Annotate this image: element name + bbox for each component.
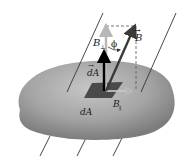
- da-vector-overarrow: →: [88, 62, 94, 70]
- field-line: [40, 136, 50, 156]
- b-vector-overarrow: →: [134, 26, 141, 35]
- flux-diagram: B → B ⊥ ϕ dA → B ∥ dA: [0, 0, 191, 166]
- da-scalar-label: dA: [80, 107, 93, 117]
- b-perp-subscript: ⊥: [100, 43, 106, 50]
- b-parallel-subscript: ∥: [119, 105, 121, 111]
- phi-label: ϕ: [111, 39, 117, 49]
